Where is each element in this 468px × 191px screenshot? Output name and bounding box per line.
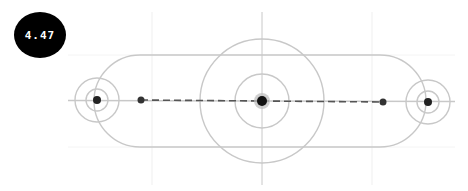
left-inner-point[interactable] [138, 97, 145, 104]
diagram-canvas [0, 0, 468, 191]
center-point[interactable] [257, 96, 267, 106]
right-point[interactable] [424, 98, 432, 106]
right-inner-point[interactable] [380, 99, 387, 106]
left-point[interactable] [93, 96, 101, 104]
